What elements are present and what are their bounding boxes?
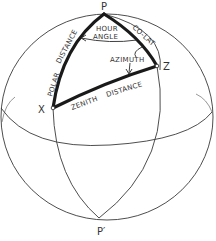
south-pole-label: P′ [97, 226, 106, 237]
hour-angle-label-2: ANGLE [93, 33, 118, 41]
equator-back-right [196, 94, 212, 112]
azimuth-arrow-down [129, 63, 130, 73]
zenith-label: Z [163, 61, 170, 72]
star-label: X [38, 104, 45, 115]
equator-back-left [2, 97, 15, 122]
celestial-sphere-diagram: P Z X P′ HOUR ANGLE CO-LAT AZIMUTH POLAR… [0, 0, 216, 241]
zenith-point-z [155, 64, 159, 68]
pole-label: P [101, 1, 107, 12]
star-point-x [51, 106, 55, 110]
hour-angle-label-1: HOUR [96, 25, 118, 33]
azimuth-label: AZIMUTH [110, 56, 144, 64]
sphere-outline [1, 14, 213, 220]
meridian-x-lower [53, 108, 99, 218]
equator-front [1, 108, 212, 146]
